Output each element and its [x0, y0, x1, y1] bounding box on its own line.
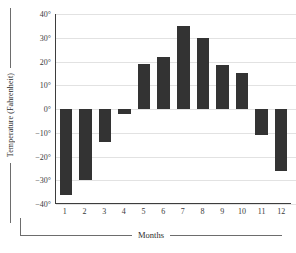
bar — [177, 26, 190, 109]
bar-slot — [154, 14, 174, 203]
bar — [216, 65, 229, 109]
bar-slot — [232, 14, 252, 203]
gridline — [56, 204, 296, 205]
x-axis-label-block: Months — [20, 224, 282, 246]
bar — [60, 109, 73, 195]
y-axis-tick-label: 20° — [40, 57, 51, 66]
y-axis-rule-bottom — [10, 163, 11, 223]
x-axis-tick-labels: 123456789101112 — [55, 207, 291, 221]
x-axis-tick-label: 12 — [271, 207, 291, 221]
bar — [197, 38, 210, 109]
x-axis-tick-label: 7 — [173, 207, 193, 221]
bar — [236, 73, 249, 109]
y-axis-tick-label: −30° — [35, 176, 51, 185]
plot-area — [55, 14, 291, 204]
bar-slot — [271, 14, 291, 203]
y-axis-tick-label: 30° — [40, 33, 51, 42]
bar-slot — [95, 14, 115, 203]
x-axis-title: Months — [132, 230, 170, 240]
x-axis-tick-label: 2 — [75, 207, 95, 221]
x-axis-tick-label: 4 — [114, 207, 134, 221]
y-axis-title: Temperature (Fahrenheit) — [6, 68, 15, 162]
x-axis-tick-label: 8 — [193, 207, 213, 221]
bar-series — [56, 14, 291, 203]
x-axis-tick-label: 3 — [94, 207, 114, 221]
x-axis-tick-label: 5 — [134, 207, 154, 221]
bar — [157, 57, 170, 109]
bar — [79, 109, 92, 180]
bar — [118, 109, 131, 114]
y-axis-rule-top — [10, 8, 11, 68]
bar-slot — [213, 14, 233, 203]
bar-slot — [173, 14, 193, 203]
y-axis-tick-label: 10° — [40, 81, 51, 90]
y-axis-tick-label: 0° — [44, 105, 51, 114]
bar — [275, 109, 288, 171]
x-axis-tick-label: 1 — [55, 207, 75, 221]
bar-slot — [56, 14, 76, 203]
bar-slot — [76, 14, 96, 203]
bar-slot — [134, 14, 154, 203]
bar-slot — [252, 14, 272, 203]
y-axis-tick-labels: 40°30°20°10°0°−10°−20°−30°−40° — [20, 14, 54, 204]
y-axis-tick-label: 40° — [40, 10, 51, 19]
bar-slot — [115, 14, 135, 203]
x-axis-tick-label: 11 — [252, 207, 272, 221]
bar — [99, 109, 112, 142]
bar — [255, 109, 268, 135]
x-axis-tick-label: 10 — [232, 207, 252, 221]
x-axis-tick-label: 9 — [212, 207, 232, 221]
y-axis-tick-label: −20° — [35, 152, 51, 161]
y-axis-tick-label: −10° — [35, 128, 51, 137]
bar-chart-figure: Temperature (Fahrenheit) 40°30°20°10°0°−… — [0, 0, 296, 253]
x-axis-tick-label: 6 — [153, 207, 173, 221]
y-axis-tick-label: −40° — [35, 200, 51, 209]
bar-slot — [193, 14, 213, 203]
x-axis-rule-right — [170, 235, 282, 236]
y-axis-label-block: Temperature (Fahrenheit) — [0, 8, 20, 223]
bar — [138, 64, 151, 109]
x-axis-rule-left — [20, 235, 132, 236]
